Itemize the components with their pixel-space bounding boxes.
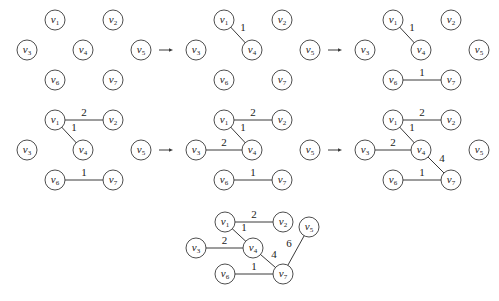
node-v5: v5 — [299, 217, 319, 237]
node-v2: v2 — [272, 110, 292, 130]
step-panel-3: 11v1v2v3v4v5v6v7 — [355, 10, 489, 90]
node-v7: v7 — [273, 264, 293, 284]
step-panel-1: v1v2v3v4v5v6v7 — [17, 10, 151, 90]
node-v7: v7 — [441, 170, 461, 190]
node-v7: v7 — [441, 70, 461, 90]
step-arrow-icon — [159, 48, 173, 52]
step-panel-6: 21241v1v2v3v4v5v6v7 — [355, 106, 489, 190]
node-v2: v2 — [441, 10, 461, 30]
edge-weight-label: 4 — [439, 152, 445, 164]
node-v5: v5 — [300, 140, 320, 160]
node-v5: v5 — [469, 40, 489, 60]
edge-weight-label: 1 — [409, 121, 415, 133]
node-v6: v6 — [383, 170, 403, 190]
edge-weight-label: 1 — [241, 221, 247, 233]
node-v6: v6 — [45, 70, 65, 90]
node-v7: v7 — [103, 70, 123, 90]
kruskal-diagram: v1v2v3v4v5v6v71v1v2v3v4v5v6v711v1v2v3v4v… — [0, 0, 499, 301]
node-v5: v5 — [131, 140, 151, 160]
node-v2: v2 — [441, 110, 461, 130]
edge-weight-label: 2 — [221, 136, 227, 148]
edge-weight-label: 1 — [419, 166, 425, 178]
edge-weight-label: 1 — [81, 166, 87, 178]
node-v5: v5 — [300, 40, 320, 60]
node-v3: v3 — [186, 140, 206, 160]
edge-weight-label: 1 — [419, 66, 425, 78]
step-panel-2: 1v1v2v3v4v5v6v7 — [186, 10, 320, 90]
node-v5: v5 — [131, 40, 151, 60]
node-v7: v7 — [103, 170, 123, 190]
node-v3: v3 — [17, 40, 37, 60]
node-v2: v2 — [103, 10, 123, 30]
node-v4: v4 — [242, 40, 262, 60]
edge-weight-label: 1 — [71, 121, 77, 133]
edge-weight-label: 2 — [222, 234, 228, 246]
step-panel-5: 2121v1v2v3v4v5v6v7 — [186, 106, 320, 190]
edge-weight-label: 2 — [81, 106, 87, 118]
edge-weight-label: 1 — [250, 166, 256, 178]
node-v3: v3 — [186, 238, 206, 258]
edge-weight-label: 6 — [286, 237, 292, 249]
edge-weight-label: 2 — [419, 106, 425, 118]
node-v3: v3 — [186, 40, 206, 60]
node-v1: v1 — [215, 212, 235, 232]
step-arrow-icon — [328, 148, 342, 152]
node-v1: v1 — [383, 10, 403, 30]
node-v3: v3 — [355, 140, 375, 160]
node-v3: v3 — [355, 40, 375, 60]
node-v1: v1 — [214, 10, 234, 30]
node-v1: v1 — [383, 110, 403, 130]
node-v6: v6 — [383, 70, 403, 90]
node-v2: v2 — [273, 212, 293, 232]
node-v1: v1 — [45, 10, 65, 30]
node-v4: v4 — [411, 40, 431, 60]
step-panel-7: 212416v1v2v3v4v5v6v7 — [186, 208, 319, 284]
node-v7: v7 — [272, 170, 292, 190]
step-arrow-icon — [328, 48, 342, 52]
node-v6: v6 — [214, 170, 234, 190]
edge-weight-label: 2 — [390, 136, 396, 148]
node-v7: v7 — [272, 70, 292, 90]
edge-weight-label: 1 — [251, 260, 257, 272]
node-v4: v4 — [73, 40, 93, 60]
node-v2: v2 — [272, 10, 292, 30]
edge-weight-label: 2 — [251, 208, 257, 220]
node-v4: v4 — [73, 140, 93, 160]
node-v1: v1 — [45, 110, 65, 130]
node-v3: v3 — [17, 140, 37, 160]
edge-weight-label: 1 — [240, 121, 246, 133]
node-v2: v2 — [103, 110, 123, 130]
edge-weight-label: 2 — [250, 106, 256, 118]
edge-weight-label: 1 — [409, 21, 415, 33]
node-v4: v4 — [243, 238, 263, 258]
node-v4: v4 — [411, 140, 431, 160]
node-v6: v6 — [45, 170, 65, 190]
edge-weight-label: 1 — [240, 21, 246, 33]
node-v5: v5 — [469, 140, 489, 160]
node-v6: v6 — [215, 264, 235, 284]
edge-weight-label: 4 — [271, 248, 277, 260]
node-v1: v1 — [214, 110, 234, 130]
node-v6: v6 — [214, 70, 234, 90]
step-panel-4: 211v1v2v3v4v5v6v7 — [17, 106, 151, 190]
step-arrow-icon — [159, 148, 173, 152]
node-v4: v4 — [242, 140, 262, 160]
